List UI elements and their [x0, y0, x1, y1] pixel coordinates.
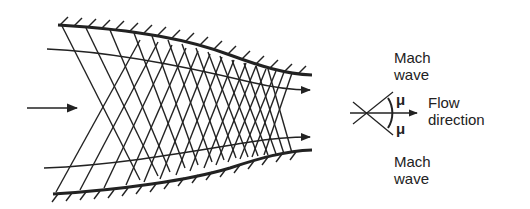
mu-lower-label: μ	[396, 120, 405, 137]
mach-wave-network	[56, 26, 292, 192]
mach-wave-top-label-1: Mach	[394, 49, 431, 66]
nozzle-mach-wave-diagram: Mach wave μ μ Flow direction Mach wave	[0, 0, 530, 209]
upper-nozzle-wall	[58, 17, 312, 75]
flow-direction-label-1: Flow	[428, 94, 460, 111]
mach-wave-bottom-label-2: wave	[393, 170, 429, 187]
flow-direction-label-2: direction	[428, 111, 485, 128]
mach-wave-top-label-2: wave	[393, 66, 429, 83]
mu-upper-label: μ	[396, 91, 405, 108]
mach-angle-schematic	[350, 92, 417, 135]
mach-wave-bottom-label-1: Mach	[394, 153, 431, 170]
